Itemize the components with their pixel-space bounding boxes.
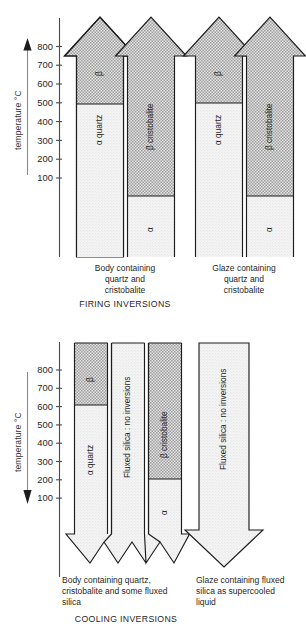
cooling-body-caption-line2: cristobalite and some fluxed	[62, 586, 168, 596]
firing-body-cristobalite-alpha-label: α	[145, 227, 155, 232]
axis-label-800: 800	[37, 41, 53, 52]
axis-label-100: 100	[37, 172, 53, 183]
axis-label-100-cooling: 100	[37, 492, 53, 503]
firing-body-caption-line3: cristobalite	[105, 285, 146, 295]
axis-title: temperature °C	[13, 90, 23, 150]
cooling-body-quartz-beta-label: β	[85, 377, 95, 382]
cooling-body-cristobalite-alpha-fill	[149, 479, 182, 534]
cooling-body-quartz-alpha-label: α quartz	[85, 445, 95, 475]
cooling-body-cristobalite-beta-label: β cristobalite	[159, 411, 169, 458]
axis-title-cooling: temperature °C	[13, 412, 23, 472]
axis-label-400: 400	[37, 116, 53, 127]
cooling-glaze-fluxed-label: Fluxed silica : no inversions	[218, 369, 228, 470]
firing-body-quartz-alpha-label: α quartz	[94, 115, 104, 145]
firing-glaze-caption: Glaze containing quartz and cristobalite	[212, 263, 276, 295]
firing-glaze-caption-line2: quartz and	[224, 274, 264, 284]
diagram-canvas: 800 700 600 500 400 300 200 100 temperat…	[0, 0, 306, 644]
axis-label-700-cooling: 700	[37, 382, 53, 393]
cooling-body-fluxed-label: Fluxed silica : no inversions	[122, 377, 132, 478]
axis-direction-arrow-down	[23, 490, 31, 504]
firing-glaze-quartz-beta-label: β	[213, 71, 223, 76]
axis-label-300: 300	[37, 135, 53, 146]
firing-axis: 800 700 600 500 400 300 200 100 temperat…	[13, 18, 63, 257]
cooling-body-caption-line3: silica	[62, 597, 81, 607]
firing-panel: 800 700 600 500 400 300 200 100 temperat…	[13, 17, 306, 309]
firing-body-quartz-beta-label: β	[94, 71, 104, 76]
cooling-glaze-caption: Glaze containing fluxed silica as superc…	[196, 575, 285, 607]
firing-glaze-quartz-alpha-label: α quartz	[213, 115, 223, 145]
cooling-body-caption: Body containing quartz, cristobalite and…	[62, 575, 168, 607]
firing-glaze-caption-line1: Glaze containing	[212, 263, 276, 273]
axis-label-200-cooling: 200	[37, 474, 53, 485]
cooling-body-group: β α quartz Fluxed silica : no inversions…	[62, 343, 190, 563]
firing-body-cristobalite-beta-label: β cristobalite	[145, 103, 155, 150]
firing-glaze-cristobalite-alpha-label: α	[264, 227, 274, 232]
cooling-glaze-caption-line2: silica as supercooled	[196, 586, 275, 596]
firing-glaze-cristobalite-alpha-fill	[247, 196, 294, 257]
cooling-glaze-caption-line1: Glaze containing fluxed	[196, 575, 285, 585]
axis-label-500: 500	[37, 97, 53, 108]
axis-label-500-cooling: 500	[37, 419, 53, 430]
firing-glaze-caption-line3: cristobalite	[224, 285, 265, 295]
firing-section-title: FIRING INVERSIONS	[79, 299, 170, 309]
firing-glaze-cristobalite-group: β cristobalite α	[235, 17, 306, 257]
cooling-glaze-caption-line3: liquid	[196, 597, 216, 607]
firing-body-cristobalite-alpha-fill	[128, 196, 175, 257]
axis-label-800-cooling: 800	[37, 364, 53, 375]
axis-label-600-cooling: 600	[37, 401, 53, 412]
axis-label-300-cooling: 300	[37, 456, 53, 467]
silica-inversion-figure: 800 700 600 500 400 300 200 100 temperat…	[0, 0, 306, 644]
axis-label-600: 600	[37, 78, 53, 89]
axis-label-400-cooling: 400	[37, 437, 53, 448]
cooling-glaze-group: Fluxed silica : no inversions	[185, 343, 263, 567]
cooling-panel: 800 700 600 500 400 300 200 100 temperat…	[13, 342, 285, 624]
cooling-body-caption-line1: Body containing quartz,	[62, 575, 151, 585]
firing-body-cristobalite-group: β cristobalite α	[116, 17, 187, 257]
cooling-body-cristobalite-alpha-label: α	[159, 510, 169, 515]
cooling-section-title: COOLING INVERSIONS	[75, 614, 177, 624]
cooling-axis: 800 700 600 500 400 300 200 100 temperat…	[13, 342, 63, 577]
firing-body-caption-line1: Body containing	[95, 263, 156, 273]
axis-label-200: 200	[37, 153, 53, 164]
firing-body-caption: Body containing quartz and cristobalite	[95, 263, 156, 295]
firing-glaze-cristobalite-beta-label: β cristobalite	[264, 103, 274, 150]
axis-label-700: 700	[37, 59, 53, 70]
firing-body-caption-line2: quartz and	[105, 274, 145, 284]
axis-direction-arrow-up	[23, 38, 31, 51]
